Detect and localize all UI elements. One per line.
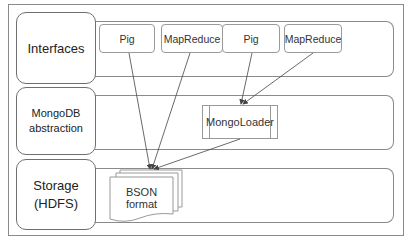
bson-document-stack-icon (0, 0, 410, 245)
bson-format-label: BSON format (110, 186, 173, 210)
box-label: BSON format (126, 186, 157, 210)
